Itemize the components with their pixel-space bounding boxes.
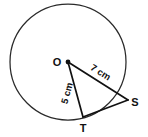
length-label-ot: 5 cm bbox=[58, 81, 74, 105]
segment-ts bbox=[83, 100, 128, 117]
point-label-s: S bbox=[131, 96, 138, 108]
geometry-canvas: O S T 7 cm 5 cm bbox=[0, 0, 148, 137]
geometry-figure: O S T 7 cm 5 cm bbox=[0, 0, 148, 137]
length-label-os: 7 cm bbox=[89, 62, 113, 83]
point-label-o: O bbox=[53, 56, 62, 68]
center-point-dot bbox=[66, 60, 71, 65]
point-label-t: T bbox=[80, 122, 87, 134]
